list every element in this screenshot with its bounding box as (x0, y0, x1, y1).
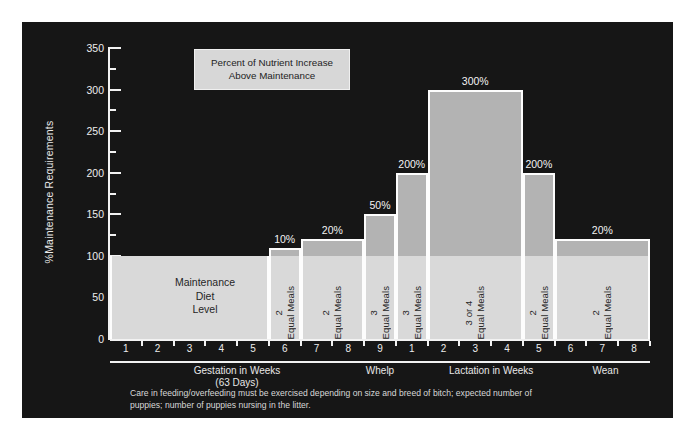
x-tick-label-7: 7 (600, 343, 606, 354)
x-tick (458, 341, 460, 346)
step-value-label: 20% (592, 224, 613, 236)
x-tick (585, 341, 587, 346)
x-tick (236, 341, 238, 346)
x-tick (173, 341, 175, 346)
x-tick-label-5: 5 (536, 343, 542, 354)
maintenance-line2: Diet (196, 290, 215, 302)
x-tick-label-6: 6 (568, 343, 574, 354)
step-value-label: 200% (398, 158, 425, 170)
x-tick (522, 341, 524, 346)
y-axis-title: %Maintenance Requirements (43, 82, 55, 302)
chart-poster: %Maintenance Requirements 05010015020025… (22, 22, 673, 418)
x-tick-label-8: 8 (631, 343, 637, 354)
x-tick-label-1: 1 (409, 343, 415, 354)
x-tick-label-3: 3 (473, 343, 479, 354)
maintenance-line3: Level (192, 303, 217, 315)
plot-area: 10%20%50%200%300%200%20% 2 Equal Meals2 … (110, 48, 650, 339)
step-value-label: 10% (274, 233, 295, 245)
x-tick (363, 341, 365, 346)
meal-label-cell: 2 Equal Meals (555, 256, 650, 339)
x-tick (554, 341, 556, 346)
step-value-label: 200% (525, 158, 552, 170)
x-tick-label-2: 2 (441, 343, 447, 354)
y-tick-label-0: 0 (68, 333, 104, 345)
legend-line-1: Percent of Nutrient Increase (199, 56, 345, 69)
chart-caption: Care in feeding/overfeeding must be exer… (130, 388, 562, 411)
y-tick-label-100: 100 (68, 250, 104, 262)
x-axis: 12345678912345678 Gestation in Weeks (63… (110, 339, 650, 379)
step-value-label: 20% (322, 224, 343, 236)
x-tick (617, 341, 619, 346)
x-tick-label-1: 1 (123, 343, 129, 354)
y-tick-label-300: 300 (68, 84, 104, 96)
y-tick-label-50: 50 (68, 291, 104, 303)
step-value-label: 300% (462, 75, 489, 87)
x-tick-label-4: 4 (218, 343, 224, 354)
x-section-label: Lactation in Weeks (449, 365, 533, 377)
x-tick (204, 341, 206, 346)
x-tick-label-9: 9 (377, 343, 383, 354)
x-tick (300, 341, 302, 346)
x-tick-label-8: 8 (345, 343, 351, 354)
x-section-label: Wean (593, 365, 619, 377)
x-tick (268, 341, 270, 346)
meal-label-text: 3 or 4 Equal Meals (463, 280, 487, 339)
x-tick-label-5: 5 (250, 343, 256, 354)
meal-label-cell: 2 Equal Meals (523, 256, 555, 339)
y-tick-label-150: 150 (68, 208, 104, 220)
maintenance-line1: Maintenance (175, 276, 235, 288)
x-tick-label-2: 2 (155, 343, 161, 354)
y-tick-label-250: 250 (68, 125, 104, 137)
x-axis-line-bottom (110, 361, 650, 363)
step-value-label: 50% (369, 199, 390, 211)
meal-label-text: 2 Equal Meals (590, 280, 614, 339)
x-tick-label-7: 7 (314, 343, 320, 354)
meal-label-cell: 3 Equal Meals (364, 256, 396, 339)
x-tick-label-6: 6 (282, 343, 288, 354)
legend-box: Percent of Nutrient Increase Above Maint… (194, 49, 350, 90)
x-tick (490, 341, 492, 346)
x-tick-label-3: 3 (187, 343, 193, 354)
meal-label-text: 3 Equal Meals (368, 280, 392, 339)
x-section-label: Gestation in Weeks (63 Days) (194, 365, 281, 388)
x-tick-label-4: 4 (504, 343, 510, 354)
x-tick (331, 341, 333, 346)
x-tick (427, 341, 429, 346)
maintenance-diet-level-label: Maintenance Diet Level (110, 254, 300, 339)
legend-line-2: Above Maintenance (199, 69, 345, 82)
meal-label-cell: 2 Equal Meals (301, 256, 365, 339)
x-tick (141, 341, 143, 346)
x-tick (395, 341, 397, 346)
y-tick-label-350: 350 (68, 42, 104, 54)
y-tick-label-200: 200 (68, 167, 104, 179)
meal-label-text: 2 Equal Meals (527, 280, 551, 339)
x-tick (649, 341, 651, 346)
meal-label-cell: 3 or 4 Equal Meals (428, 256, 523, 339)
meal-label-text: 3 Equal Meals (400, 280, 424, 339)
meal-label-cell: 3 Equal Meals (396, 256, 428, 339)
meal-label-text: 2 Equal Meals (320, 280, 344, 339)
x-axis-line-top (110, 339, 650, 341)
y-axis-tick-labels: 050100150200250300350 (60, 22, 104, 418)
x-section-label: Whelp (366, 365, 394, 377)
